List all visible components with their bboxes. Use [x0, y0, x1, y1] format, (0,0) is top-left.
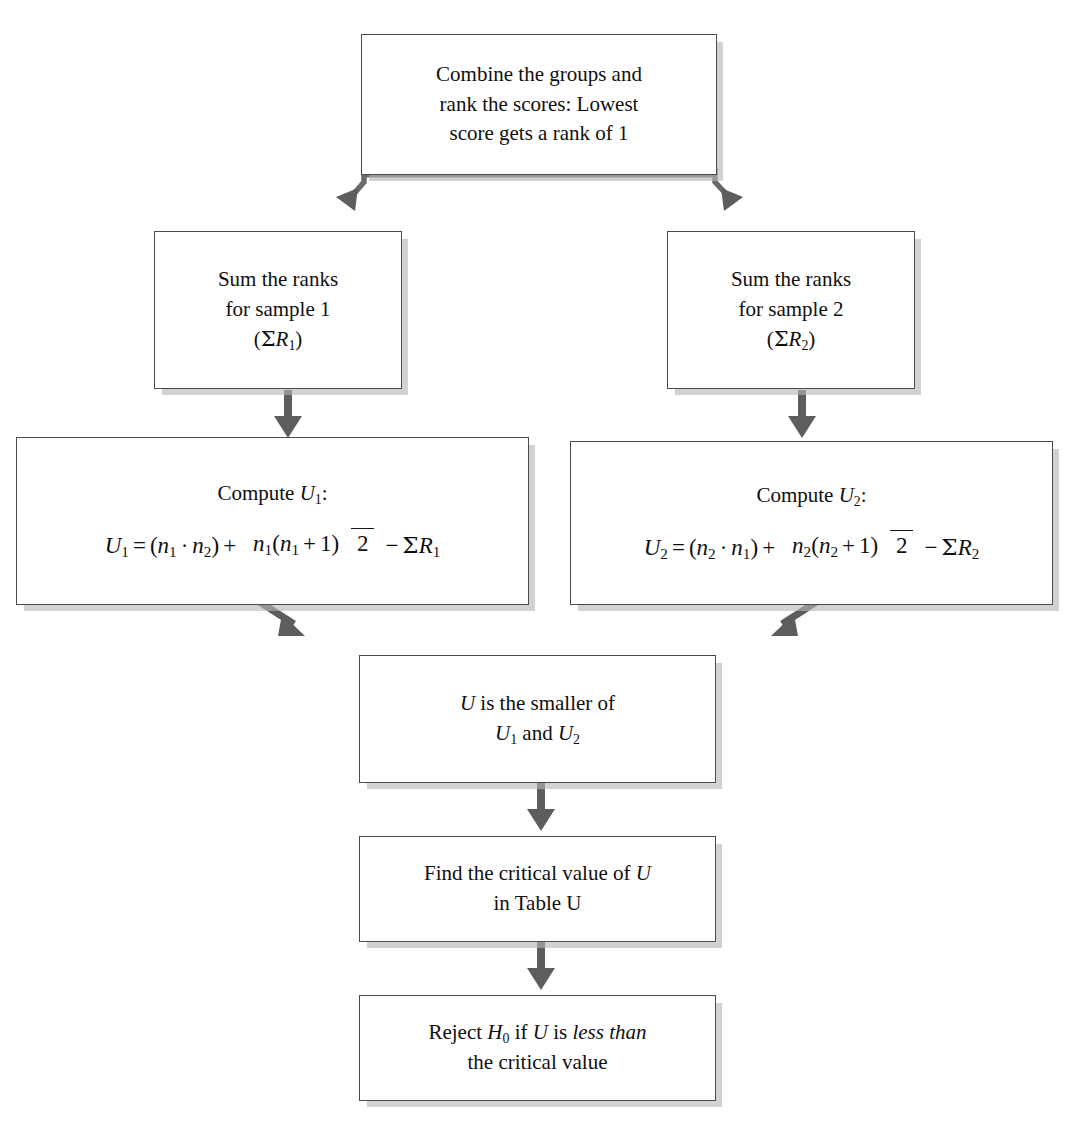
u1-lhs-sub: 1	[121, 543, 129, 560]
smaller-var-u: U	[460, 691, 475, 715]
smaller-sub-u2: 2	[573, 732, 580, 747]
sum1-paren-close: )	[295, 327, 302, 351]
u2-minus: −	[920, 532, 941, 565]
u2-product: (n2·n1)	[689, 532, 758, 565]
u1-num-sub-b: 1	[291, 541, 299, 558]
u2-num-var-b: n	[819, 533, 831, 558]
smaller-conjunction: and	[517, 721, 558, 745]
connector-smaller-to-critical	[521, 783, 561, 835]
sum2-paren-open: (	[767, 327, 774, 351]
combine-line-1: Combine the groups and	[436, 60, 642, 90]
u1-num-paren-close: )	[331, 531, 339, 556]
node-compute-u2[interactable]: Compute U2: U2 = (n2·n1) + n2(n2+1) 2 − …	[570, 441, 1053, 605]
sum1-symbol: (ΣR1)	[254, 325, 303, 355]
compute-u2-heading-var: U	[839, 483, 854, 507]
u1-p-var1: n	[158, 533, 170, 558]
sum2-line-1: Sum the ranks	[731, 265, 851, 295]
u2-num-paren-open: (	[811, 533, 819, 558]
u2-dot: ·	[716, 535, 732, 560]
u1-rank-sum: ΣR1	[402, 529, 440, 563]
node-reject-h0[interactable]: Reject H0 if U is less than the critical…	[359, 995, 716, 1101]
connector-critical-to-reject	[521, 942, 561, 994]
compute-u2-heading-suffix: :	[861, 483, 867, 507]
smaller-var-u1: U	[495, 721, 510, 745]
critical-var-u: U	[636, 861, 651, 885]
compute-u1-heading-sub: 1	[315, 492, 322, 507]
compute-u1-formula: U1 = (n1·n2) + n1(n1+1) 2 − ΣR1	[105, 529, 441, 563]
reject-text-3: is	[548, 1020, 573, 1044]
sum2-paren-close: )	[808, 327, 815, 351]
sum1-var: R	[276, 327, 289, 351]
node-u-is-smaller[interactable]: U is the smaller of U1 and U2	[359, 655, 716, 783]
reject-line-2: the critical value	[468, 1048, 608, 1078]
node-sum-ranks-sample-1[interactable]: Sum the ranks for sample 1 (ΣR1)	[154, 231, 402, 389]
node-sum-ranks-sample-2[interactable]: Sum the ranks for sample 2 (ΣR2)	[667, 231, 915, 389]
compute-u1-heading-var: U	[300, 481, 315, 505]
u2-lhs: U2	[644, 532, 668, 565]
u1-fraction-numerator: n1(n1+1)	[247, 531, 345, 558]
u2-lhs-sub: 2	[660, 545, 668, 562]
reject-text-2: if	[509, 1020, 532, 1044]
smaller-line-2: U1 and U2	[495, 719, 580, 749]
u1-paren-open: (	[150, 533, 158, 558]
smaller-text-1: is the smaller of	[475, 691, 615, 715]
u2-sum-var: R	[958, 535, 972, 560]
u2-num-one: 1	[859, 533, 871, 558]
combine-line-2: rank the scores: Lowest	[440, 90, 639, 120]
u1-equals: =	[129, 530, 150, 563]
critical-line-1: Find the critical value of U	[424, 859, 651, 889]
u2-lhs-var: U	[644, 535, 661, 560]
connector-sum1-to-u1	[268, 390, 308, 442]
compute-u2-formula: U2 = (n2·n1) + n2(n2+1) 2 − ΣR2	[644, 531, 980, 565]
u1-dot: ·	[177, 533, 193, 558]
u2-p-sub1: 2	[708, 545, 716, 562]
u2-num-var-a: n	[792, 533, 804, 558]
u2-sigma-icon: Σ	[941, 534, 957, 560]
reject-var-u: U	[533, 1020, 548, 1044]
u2-p-var1: n	[697, 535, 709, 560]
connector-u1-to-smaller	[248, 598, 328, 648]
combine-line-3: score gets a rank of 1	[449, 119, 628, 149]
flowchart-canvas: Combine the groups and rank the scores: …	[0, 0, 1073, 1126]
u1-lhs: U1	[105, 530, 129, 563]
sum2-line-2: for sample 2	[739, 295, 844, 325]
u1-num-one: 1	[320, 531, 332, 556]
compute-u1-heading: Compute U1:	[217, 479, 327, 509]
critical-line-2: in Table U	[494, 889, 582, 919]
sum2-sigma-icon: Σ	[774, 327, 789, 351]
node-compute-u1[interactable]: Compute U1: U1 = (n1·n2) + n1(n1+1) 2 − …	[16, 437, 529, 605]
sum1-paren-open: (	[254, 327, 261, 351]
u1-sigma-icon: Σ	[402, 532, 418, 558]
reject-line-1: Reject H0 if U is less than	[428, 1018, 646, 1048]
sum1-line-1: Sum the ranks	[218, 265, 338, 295]
u1-product: (n1·n2)	[150, 530, 219, 563]
u1-plus: +	[219, 530, 240, 563]
u1-paren-close: )	[211, 533, 219, 558]
reject-var-h: H	[487, 1020, 502, 1044]
u1-num-plus: +	[299, 531, 320, 556]
sum1-sigma-icon: Σ	[261, 327, 276, 351]
u2-rank-sum: ΣR2	[941, 531, 979, 565]
u2-fraction-numerator: n2(n2+1)	[786, 533, 884, 560]
u1-num-var-a: n	[253, 531, 265, 556]
u1-sum-var: R	[419, 533, 433, 558]
compute-u2-heading-sub: 2	[854, 494, 861, 509]
critical-text-1: Find the critical value of	[424, 861, 636, 885]
node-combine-and-rank[interactable]: Combine the groups and rank the scores: …	[361, 34, 717, 175]
connector-u2-to-smaller	[748, 598, 828, 648]
u2-equals: =	[668, 532, 689, 565]
u2-num-sub-b: 2	[830, 543, 838, 560]
sum2-var: R	[789, 327, 802, 351]
u1-sum-sub: 1	[433, 543, 441, 560]
u2-num-paren-close: )	[870, 533, 878, 558]
compute-u2-heading: Compute U2:	[756, 481, 866, 511]
u2-num-plus: +	[838, 533, 859, 558]
u1-p-sub1: 1	[169, 543, 177, 560]
u2-paren-close: )	[750, 535, 758, 560]
compute-u1-heading-prefix: Compute	[217, 481, 299, 505]
node-find-critical-value[interactable]: Find the critical value of U in Table U	[359, 836, 716, 942]
u2-fraction: n2(n2+1) 2	[786, 530, 913, 563]
smaller-var-u2: U	[558, 721, 573, 745]
compute-u1-heading-suffix: :	[322, 481, 328, 505]
u1-num-var-b: n	[280, 531, 292, 556]
